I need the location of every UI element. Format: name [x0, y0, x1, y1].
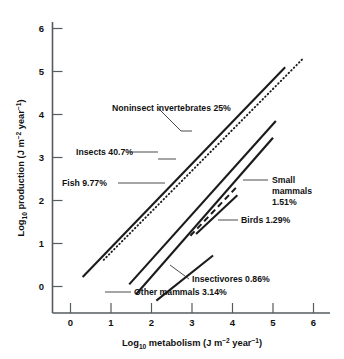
- y-tick-label-0: 0: [39, 281, 44, 292]
- x-tick-label-2: 2: [149, 317, 154, 328]
- x-tick-label-1: 1: [108, 317, 114, 328]
- y-axis-title-prefix: Log: [16, 219, 26, 236]
- x-tick-label-5: 5: [270, 317, 276, 328]
- svg-text:Log10 metabolism (J m−2 year−1: Log10 metabolism (J m−2 year−1): [122, 337, 262, 350]
- y-tick-label-6: 6: [39, 23, 44, 34]
- label-birds: Birds 1.29%: [241, 215, 291, 225]
- x-tick-label-3: 3: [189, 317, 194, 328]
- y-tick-label-3: 3: [39, 152, 44, 163]
- x-tick-label-6: 6: [311, 317, 316, 328]
- x-axis-title-prefix: Log: [122, 338, 139, 348]
- leader-lines: [105, 108, 268, 292]
- label-small-mammals-line1: Small: [272, 175, 295, 185]
- x-axis-title-mid: metabolism (J m: [146, 338, 222, 348]
- x-tick-group: 0 1 2 3 4 5 6: [68, 303, 316, 328]
- x-axis-title-suffix: ): [259, 338, 262, 348]
- series-line-noninsect-invertebrates-25: [104, 59, 302, 259]
- y-tick-label-1: 1: [39, 238, 45, 249]
- y-axis-title-mid: production (J m: [16, 139, 26, 212]
- y-tick-label-5: 5: [39, 66, 45, 77]
- y-tick-label-2: 2: [39, 195, 44, 206]
- series-line-fish-9-77: [129, 121, 276, 284]
- axis-group: [53, 22, 331, 313]
- label-fish: Fish 9.77%: [62, 178, 107, 188]
- x-tick-label-4: 4: [230, 317, 236, 328]
- y-tick-group: 6 5 4 3 2 1 0: [39, 23, 63, 292]
- y-axis-title: Log10 production (J m−2 year−1): [15, 99, 28, 236]
- series-line-birds-1-29: [190, 186, 237, 235]
- label-noninsect-invertebrates: Noninsect invertebrates 25%: [112, 103, 231, 113]
- x-tick-label-0: 0: [68, 317, 73, 328]
- label-small-mammals-line3: 1.51%: [272, 197, 297, 207]
- x-axis-title: Log10 metabolism (J m−2 year−1): [122, 337, 262, 350]
- chart-svg: 6 5 4 3 2 1 0 0 1 2 3 4 5 6 Log10 metabo…: [0, 0, 344, 359]
- leader-insectivores: [170, 265, 189, 279]
- label-small-mammals-line2: mammals: [272, 186, 312, 196]
- y-axis-title-suffix: ): [16, 99, 26, 102]
- label-insects: Insects 40.7%: [76, 147, 133, 157]
- svg-text:Log10 production (J m−2 year−1: Log10 production (J m−2 year−1): [15, 99, 28, 236]
- y-axis-title-mid2: year: [16, 110, 26, 132]
- scatter-regression-figure: 6 5 4 3 2 1 0 0 1 2 3 4 5 6 Log10 metabo…: [0, 0, 344, 359]
- annotation-labels: Noninsect invertebrates 25% Insects 40.7…: [62, 103, 312, 297]
- y-tick-label-4: 4: [39, 109, 45, 120]
- label-insectivores: Insectivores 0.86%: [192, 274, 270, 284]
- series-line-insects-40-7: [83, 67, 286, 277]
- series-layer: [83, 59, 303, 300]
- label-other-mammals: Other mammals 3.14%: [134, 287, 227, 297]
- x-axis-title-mid2: year: [230, 338, 252, 348]
